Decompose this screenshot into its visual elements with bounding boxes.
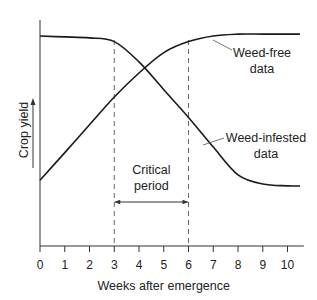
weed-free-label-line2: data	[250, 62, 274, 76]
weed-free-leader-line	[213, 40, 232, 50]
x-tick-label: 1	[61, 258, 68, 272]
weed-infested-label-line1: Weed-infested	[226, 131, 306, 145]
labels: Weed-freedataWeed-infesteddata	[203, 40, 306, 161]
weed-free-label-line1: Weed-free	[233, 46, 291, 60]
x-tick-label: 6	[185, 258, 192, 272]
x-tick-label: 5	[160, 258, 167, 272]
x-tick-label: 3	[111, 258, 118, 272]
crop-yield-chart: 012345678910Weeks after emergenceCrop yi…	[0, 0, 317, 300]
x-tick-label: 4	[136, 258, 143, 272]
x-tick-label: 9	[259, 258, 266, 272]
arrow-right-icon	[183, 200, 189, 204]
x-tick-label: 8	[235, 258, 242, 272]
x-tick-label: 0	[37, 258, 44, 272]
x-tick-label: 2	[86, 258, 93, 272]
critical-period-label-line1: Critical	[132, 163, 170, 177]
arrow-left-icon	[114, 200, 120, 204]
weed-infested-label-line2: data	[254, 147, 278, 161]
x-tick-label: 7	[210, 258, 217, 272]
x-axis-title: Weeks after emergence	[98, 279, 231, 293]
y-axis-arrow-head-icon	[31, 98, 36, 105]
critical-period-label-line2: period	[134, 179, 169, 193]
y-axis-title: Crop yield	[17, 102, 31, 158]
critical-period-guides: Criticalperiod	[114, 40, 188, 246]
x-tick-label: 10	[281, 258, 295, 272]
